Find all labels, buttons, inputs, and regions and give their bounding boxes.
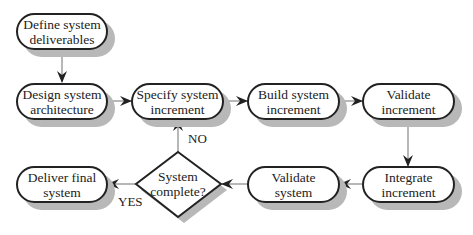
node-text-line: Validate <box>271 170 315 185</box>
edge-label-no: NO <box>188 131 207 147</box>
node-deliver-final-system: Deliver finalsystem <box>16 166 108 203</box>
node-text-line: increment <box>382 102 436 117</box>
node-text-line: Validate <box>382 87 436 102</box>
node-design-system-architecture: Design systemarchitecture <box>16 83 108 120</box>
node-text-line: Integrate <box>382 170 436 185</box>
node-validate-system: Validatesystem <box>247 166 340 203</box>
node-text-line: Deliver final <box>28 170 97 185</box>
node-integrate-increment: Integrateincrement <box>362 166 455 203</box>
node-text-line: Design system <box>22 87 101 102</box>
node-text-line: system <box>28 185 97 200</box>
node-text-line: system <box>271 185 315 200</box>
node-validate-increment: Validateincrement <box>362 83 455 120</box>
edge-label-yes: YES <box>118 194 143 210</box>
node-text-line: increment <box>136 102 218 117</box>
node-text-line: increment <box>382 185 436 200</box>
node-text-line: Specify system <box>136 87 218 102</box>
node-build-system-increment: Build systemincrement <box>247 83 340 120</box>
node-text-line: System <box>138 169 218 184</box>
node-text-line: deliverables <box>23 32 101 47</box>
decision-system-complete-text: System complete? <box>138 169 218 199</box>
node-text-line: Define system <box>23 17 101 32</box>
node-text-line: architecture <box>22 102 101 117</box>
node-text-line: complete? <box>138 184 218 199</box>
node-text-line: Build system <box>258 87 329 102</box>
node-define-system-deliverables: Define systemdeliverables <box>16 13 108 50</box>
node-specify-system-increment: Specify systemincrement <box>131 83 224 120</box>
node-text-line: increment <box>258 102 329 117</box>
